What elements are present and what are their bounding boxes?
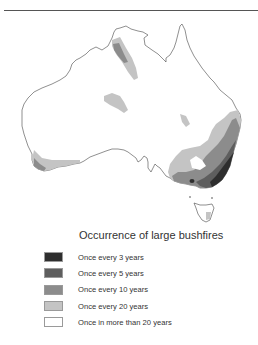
legend-label: Once every 3 years [78, 253, 144, 262]
swatch-3yr [44, 252, 63, 262]
swatch-10yr [44, 285, 63, 295]
legend-label: Once every 20 years [78, 302, 148, 311]
legend-item-3yr: Once every 3 years [44, 249, 172, 265]
victoria-3yr-spot [190, 179, 195, 183]
swatch-20yr [44, 301, 63, 311]
legend-label: Once every 5 years [78, 269, 144, 278]
australia-bushfire-map [0, 0, 258, 230]
legend-title: Occurrence of large bushfires [79, 229, 223, 241]
island-dot [189, 196, 191, 198]
legend-item-5yr: Once every 5 years [44, 265, 172, 281]
legend-label: Once every 10 years [78, 285, 148, 294]
tasmania-outline [194, 203, 214, 222]
island-dot-2 [211, 197, 213, 199]
swatch-over-20yr [44, 317, 63, 327]
legend-label: Once in more than 20 years [78, 318, 172, 327]
legend-item-10yr: Once every 10 years [44, 282, 172, 298]
legend-item-over-20yr: Once in more than 20 years [44, 314, 172, 330]
legend: Once every 3 years Once every 5 years On… [44, 249, 172, 330]
swatch-5yr [44, 268, 63, 278]
legend-item-20yr: Once every 20 years [44, 298, 172, 314]
